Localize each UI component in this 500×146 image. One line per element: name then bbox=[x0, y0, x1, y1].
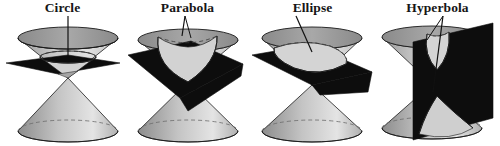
parabola-diagram bbox=[125, 0, 250, 146]
conic-label-circle: Circle bbox=[0, 1, 125, 15]
hyperbola-diagram bbox=[375, 0, 500, 146]
circle-diagram bbox=[0, 0, 125, 146]
conic-panel-circle: Circle bbox=[0, 0, 125, 146]
conic-panel-parabola: Parabola bbox=[125, 0, 250, 146]
conic-label-ellipse: Ellipse bbox=[250, 1, 375, 15]
ellipse-diagram bbox=[250, 0, 375, 146]
conic-panel-hyperbola: Hyperbola bbox=[375, 0, 500, 146]
conic-panel-ellipse: Ellipse bbox=[250, 0, 375, 146]
conic-label-parabola: Parabola bbox=[125, 1, 250, 15]
conic-label-hyperbola: Hyperbola bbox=[375, 1, 500, 15]
conic-sections-figure: Circle bbox=[0, 0, 500, 146]
lower-nappe bbox=[18, 78, 118, 142]
